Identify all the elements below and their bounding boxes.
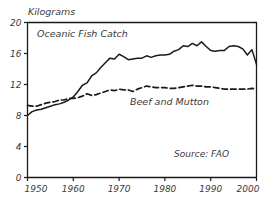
y-tick-label: 4	[16, 142, 22, 152]
x-tick-label: 1970	[108, 184, 131, 194]
x-tick-label: 2000	[237, 184, 260, 194]
y-tick-label: 16	[10, 49, 22, 59]
y-axis-title: Kilograms	[28, 6, 75, 17]
x-tick-label: 1980	[153, 184, 176, 194]
y-axis-ticks: 048121620	[10, 18, 27, 183]
chart-canvas: Kilograms 048121620 19501960197019801990…	[0, 0, 277, 203]
series-annotation-beef-and-mutton: Beef and Mutton	[130, 96, 209, 107]
source-annotation: Source: FAO	[174, 149, 229, 159]
y-tick-label: 12	[10, 80, 22, 90]
x-tick-label: 1990	[199, 184, 222, 194]
fish-catch-line-chart: Kilograms 048121620 19501960197019801990…	[0, 0, 277, 203]
chart-annotations: Oceanic Fish CatchBeef and MuttonSource:…	[37, 28, 229, 159]
x-axis-ticks: 195019601970198019902000	[25, 178, 260, 194]
x-tick-label: 1950	[25, 184, 48, 194]
series-annotation-oceanic-fish-catch: Oceanic Fish Catch	[37, 28, 128, 39]
x-tick-label: 1960	[62, 184, 85, 194]
y-tick-label: 8	[16, 111, 22, 121]
y-tick-label: 20	[10, 18, 22, 28]
y-tick-label: 0	[16, 173, 22, 183]
